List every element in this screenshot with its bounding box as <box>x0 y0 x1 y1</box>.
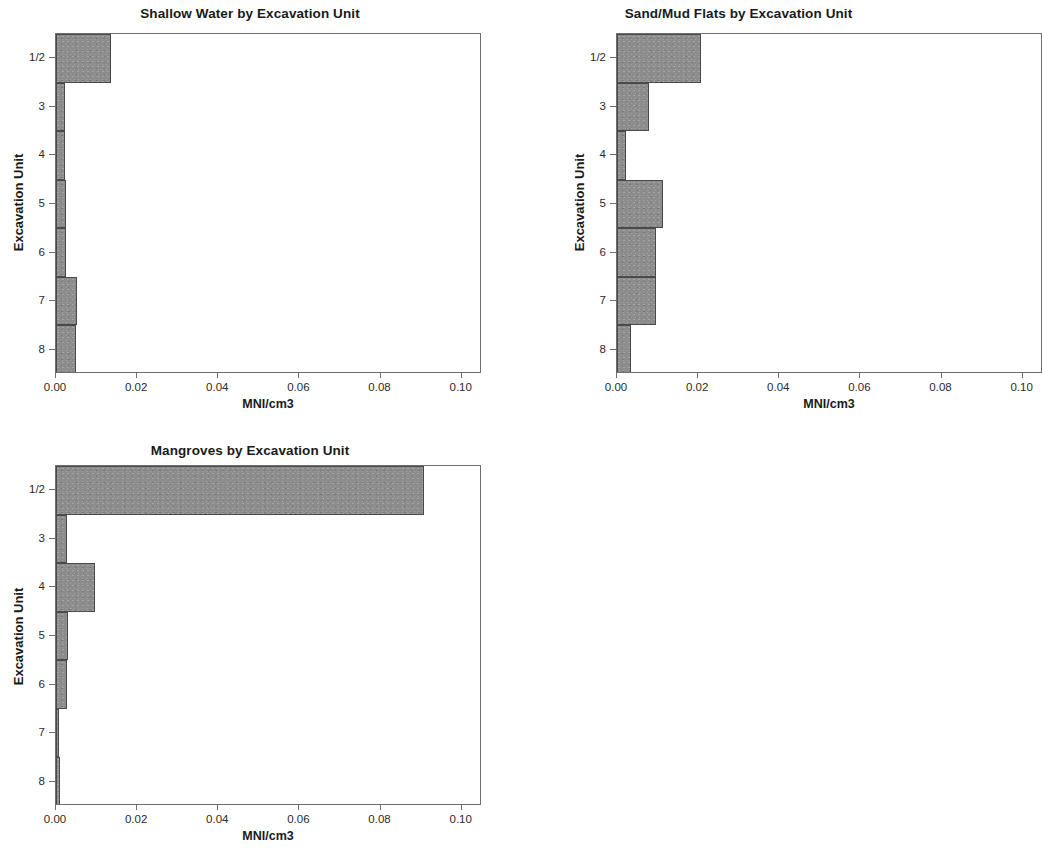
y-tick-label-shallow-water-5: 7 <box>9 294 45 306</box>
y-tick-label-shallow-water-2: 4 <box>9 148 45 160</box>
y-tick-shallow-water-0 <box>49 57 55 58</box>
y-tick-label-mangroves-0: 1/2 <box>9 483 45 495</box>
y-tick-label-mangroves-1: 3 <box>9 532 45 544</box>
y-tick-sand-mud-flats-4 <box>610 252 616 253</box>
bar-shallow-water-unit-6 <box>56 228 66 277</box>
y-tick-label-shallow-water-6: 8 <box>9 343 45 355</box>
y-tick-label-sand-mud-flats-4: 6 <box>570 246 606 258</box>
y-tick-label-shallow-water-1: 3 <box>9 100 45 112</box>
x-tick-mangroves-0 <box>55 805 56 810</box>
bars-container-sand-mud-flats <box>617 34 1041 372</box>
y-tick-sand-mud-flats-5 <box>610 300 616 301</box>
x-tick-label-sand-mud-flats-2: 0.04 <box>767 381 789 393</box>
bar-mangroves-unit-3 <box>56 515 67 564</box>
bar-sand-mud-flats-unit-8 <box>617 325 631 372</box>
bar-shallow-water-unit-3 <box>56 83 65 132</box>
x-tick-mangroves-2 <box>217 805 218 810</box>
x-tick-shallow-water-3 <box>298 373 299 378</box>
y-tick-label-mangroves-4: 6 <box>9 678 45 690</box>
y-tick-mangroves-2 <box>49 586 55 587</box>
x-axis-title-sand-mud-flats: MNI/cm3 <box>803 397 854 411</box>
bar-shallow-water-unit-5 <box>56 180 66 229</box>
bars-container-mangroves <box>56 466 480 804</box>
bar-mangroves-unit-4 <box>56 563 95 612</box>
x-tick-mangroves-4 <box>380 805 381 810</box>
y-tick-label-sand-mud-flats-3: 5 <box>570 197 606 209</box>
bar-mangroves-unit-5 <box>56 612 68 661</box>
chart-title-sand-mud-flats: Sand/Mud Flats by Excavation Unit <box>501 6 976 21</box>
y-tick-mangroves-1 <box>49 538 55 539</box>
y-tick-mangroves-4 <box>49 684 55 685</box>
bar-sand-mud-flats-unit-1-2 <box>617 34 701 83</box>
y-tick-sand-mud-flats-6 <box>610 349 616 350</box>
chart-title-mangroves: Mangroves by Excavation Unit <box>0 443 500 458</box>
bar-mangroves-unit-8 <box>56 757 60 804</box>
y-tick-label-mangroves-3: 5 <box>9 629 45 641</box>
y-tick-mangroves-6 <box>49 781 55 782</box>
chart-panel-mangroves: Mangroves by Excavation Unit Excavation … <box>0 437 500 849</box>
x-tick-label-mangroves-0: 0.00 <box>44 813 66 825</box>
x-tick-shallow-water-0 <box>55 373 56 378</box>
x-tick-label-sand-mud-flats-1: 0.02 <box>686 381 708 393</box>
x-tick-label-shallow-water-2: 0.04 <box>206 381 228 393</box>
plot-area-shallow-water <box>55 33 481 373</box>
bar-sand-mud-flats-unit-6 <box>617 228 656 277</box>
x-tick-shallow-water-2 <box>217 373 218 378</box>
bar-shallow-water-unit-8 <box>56 325 76 372</box>
y-tick-label-shallow-water-4: 6 <box>9 246 45 258</box>
bar-mangroves-unit-7 <box>56 709 59 758</box>
y-tick-label-sand-mud-flats-6: 8 <box>570 343 606 355</box>
x-tick-label-mangroves-1: 0.02 <box>125 813 147 825</box>
bar-sand-mud-flats-unit-7 <box>617 277 656 326</box>
y-tick-mangroves-3 <box>49 635 55 636</box>
x-tick-sand-mud-flats-4 <box>941 373 942 378</box>
bar-shallow-water-unit-1-2 <box>56 34 111 83</box>
y-tick-shallow-water-3 <box>49 203 55 204</box>
y-tick-shallow-water-1 <box>49 106 55 107</box>
x-tick-shallow-water-5 <box>461 373 462 378</box>
x-tick-label-mangroves-5: 0.10 <box>450 813 472 825</box>
x-tick-label-shallow-water-0: 0.00 <box>44 381 66 393</box>
y-tick-label-mangroves-5: 7 <box>9 726 45 738</box>
y-tick-shallow-water-6 <box>49 349 55 350</box>
y-tick-label-shallow-water-0: 1/2 <box>9 51 45 63</box>
x-axis-title-mangroves: MNI/cm3 <box>242 829 293 843</box>
x-tick-sand-mud-flats-3 <box>859 373 860 378</box>
x-tick-label-mangroves-2: 0.04 <box>206 813 228 825</box>
y-tick-shallow-water-2 <box>49 154 55 155</box>
bar-sand-mud-flats-unit-4 <box>617 131 626 180</box>
y-tick-mangroves-0 <box>49 489 55 490</box>
x-tick-sand-mud-flats-2 <box>778 373 779 378</box>
x-tick-mangroves-5 <box>461 805 462 810</box>
bar-shallow-water-unit-7 <box>56 277 77 326</box>
y-tick-label-sand-mud-flats-2: 4 <box>570 148 606 160</box>
x-tick-label-sand-mud-flats-0: 0.00 <box>605 381 627 393</box>
x-axis-title-shallow-water: MNI/cm3 <box>242 397 293 411</box>
x-tick-sand-mud-flats-5 <box>1022 373 1023 378</box>
bar-sand-mud-flats-unit-3 <box>617 83 649 132</box>
x-tick-label-shallow-water-5: 0.10 <box>450 381 472 393</box>
y-tick-label-mangroves-2: 4 <box>9 580 45 592</box>
x-tick-label-mangroves-4: 0.08 <box>368 813 390 825</box>
x-tick-mangroves-1 <box>136 805 137 810</box>
x-tick-label-shallow-water-3: 0.06 <box>287 381 309 393</box>
x-tick-label-shallow-water-1: 0.02 <box>125 381 147 393</box>
x-tick-shallow-water-4 <box>380 373 381 378</box>
x-tick-sand-mud-flats-1 <box>697 373 698 378</box>
x-tick-label-sand-mud-flats-3: 0.06 <box>848 381 870 393</box>
y-tick-sand-mud-flats-0 <box>610 57 616 58</box>
y-tick-sand-mud-flats-1 <box>610 106 616 107</box>
y-tick-sand-mud-flats-3 <box>610 203 616 204</box>
y-tick-mangroves-5 <box>49 732 55 733</box>
bars-container-shallow-water <box>56 34 480 372</box>
y-tick-shallow-water-4 <box>49 252 55 253</box>
plot-area-mangroves <box>55 465 481 805</box>
x-tick-label-shallow-water-4: 0.08 <box>368 381 390 393</box>
y-tick-shallow-water-5 <box>49 300 55 301</box>
y-tick-label-sand-mud-flats-5: 7 <box>570 294 606 306</box>
y-tick-sand-mud-flats-2 <box>610 154 616 155</box>
x-tick-label-sand-mud-flats-5: 0.10 <box>1011 381 1033 393</box>
x-tick-label-sand-mud-flats-4: 0.08 <box>929 381 951 393</box>
chart-title-shallow-water: Shallow Water by Excavation Unit <box>0 6 500 21</box>
bar-shallow-water-unit-4 <box>56 131 65 180</box>
